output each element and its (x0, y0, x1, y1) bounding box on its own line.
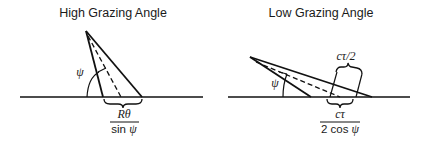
beam-center-dashed (256, 62, 340, 97)
angle-psi-label: ψ (76, 65, 84, 79)
fraction-numerator: cτ (335, 107, 345, 121)
fraction-denominator: sin ψ (111, 122, 137, 136)
beam-upper-edge (250, 57, 372, 97)
grazing-angle-diagram: High Grazing Angle ψ Rθ sin ψ Low Grazin… (0, 0, 427, 145)
fraction-numerator: Rθ (116, 107, 130, 121)
pulse-half-length-label: cτ/2 (337, 49, 356, 63)
angle-psi-label: ψ (271, 76, 279, 90)
pulse-brace (336, 63, 362, 74)
beam-cross-segment (279, 72, 287, 74)
beam-cross-segment (98, 68, 106, 72)
fraction-denominator: 2 cos ψ (321, 122, 360, 136)
low-grazing-panel: Low Grazing Angle ψ cτ/2 cτ 2 cos ψ (228, 6, 410, 136)
high-grazing-title: High Grazing Angle (59, 6, 167, 20)
angle-arc (283, 74, 287, 97)
low-grazing-title: Low Grazing Angle (269, 6, 374, 20)
high-grazing-panel: High Grazing Angle ψ Rθ sin ψ (20, 6, 203, 136)
